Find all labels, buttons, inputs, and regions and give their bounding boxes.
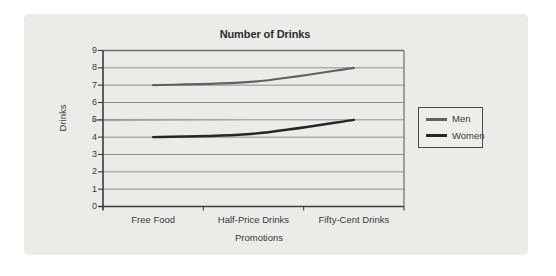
y-tick-label-2: 2 xyxy=(73,166,97,177)
y-tick-label-6: 6 xyxy=(73,97,97,108)
legend-swatch-women xyxy=(426,134,447,136)
legend: MenWomen xyxy=(418,107,483,148)
y-tick-label-4: 4 xyxy=(73,132,97,143)
y-tick-label-9: 9 xyxy=(73,45,97,56)
scan-artifact-line xyxy=(92,120,252,121)
legend-entry-women: Women xyxy=(426,131,482,141)
y-tick-label-3: 3 xyxy=(73,149,97,160)
legend-label: Women xyxy=(452,131,485,141)
y-tick-label-5: 5 xyxy=(73,114,97,125)
legend-swatch-men xyxy=(426,118,447,120)
series-line-women xyxy=(153,120,354,137)
legend-label: Men xyxy=(452,114,470,124)
x-axis-title: Promotions xyxy=(159,232,359,243)
x-category-label: Fifty-Cent Drinks xyxy=(294,214,414,225)
series-line-men xyxy=(153,68,354,85)
y-axis-title: Drinks xyxy=(57,78,69,158)
legend-entry-men: Men xyxy=(426,114,482,124)
chart-title: Number of Drinks xyxy=(103,28,427,40)
y-tick-label-8: 8 xyxy=(73,62,97,73)
y-tick-label-1: 1 xyxy=(73,184,97,195)
y-tick-label-7: 7 xyxy=(73,80,97,91)
y-tick-label-0: 0 xyxy=(73,201,97,212)
